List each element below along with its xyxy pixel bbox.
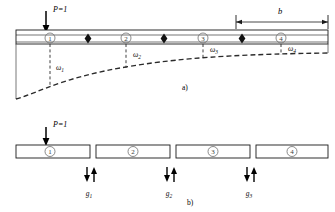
segment-label-4: 4 — [290, 148, 294, 156]
svg-text:ω1: ω1 — [56, 63, 64, 73]
svg-text:g1: g1 — [86, 189, 93, 199]
segment-label-2: 2 — [131, 148, 135, 156]
force-pair-g3 — [244, 167, 257, 182]
g-sub-3: 3 — [249, 193, 253, 199]
load-label-a: P=1 — [53, 6, 67, 14]
g-sub-2: 2 — [170, 193, 173, 199]
load-label-b: P=1 — [53, 121, 67, 129]
svg-text:ω2: ω2 — [133, 50, 141, 60]
svg-text:ω4: ω4 — [288, 44, 296, 54]
load-arrow-b — [43, 127, 50, 146]
node-label-2: 2 — [124, 35, 128, 43]
omega-sub-3: 3 — [214, 49, 218, 55]
force-pair-g2 — [164, 167, 177, 182]
g-sub-1: 1 — [90, 193, 93, 199]
beam-segments-b — [16, 145, 328, 158]
svg-text:g3: g3 — [246, 189, 253, 199]
dimension-b — [236, 15, 328, 29]
panel-b: 1 2 3 4 g1 g2 — [16, 127, 328, 199]
omega-sub-1: 1 — [61, 67, 64, 73]
deflection-curve — [16, 53, 328, 99]
segment-label-1: 1 — [48, 148, 52, 156]
ordinate-lines — [50, 44, 281, 86]
panel-a: 1 2 3 4 ω1 ω2 ω3 ω4 — [16, 11, 328, 99]
omega-sub-4: 4 — [293, 48, 296, 54]
force-labels: g1 g2 g3 — [86, 189, 253, 199]
node-label-1: 1 — [48, 35, 52, 43]
caption-b: b) — [187, 199, 193, 207]
omega-sub-2: 2 — [138, 54, 141, 60]
svg-text:ω3: ω3 — [210, 45, 218, 55]
beam-figure: 1 2 3 4 ω1 ω2 ω3 ω4 — [0, 0, 335, 212]
force-pair-g1 — [84, 167, 97, 182]
node-label-3: 3 — [201, 35, 205, 43]
caption-a: a) — [182, 84, 188, 92]
node-label-4: 4 — [279, 35, 283, 43]
svg-text:g2: g2 — [166, 189, 173, 199]
dimension-label-b: b — [278, 7, 282, 16]
ordinate-labels: ω1 ω2 ω3 ω4 — [56, 44, 296, 73]
segment-label-3: 3 — [211, 148, 215, 156]
